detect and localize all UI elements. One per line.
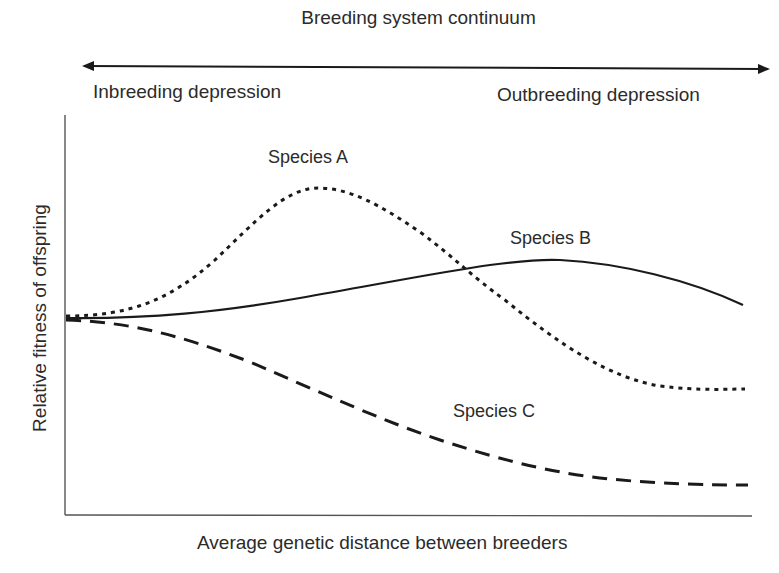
- x-axis-label: Average genetic distance between breeder…: [0, 532, 779, 554]
- outbreeding-depression-label: Outbreeding depression: [497, 84, 700, 106]
- continuum-arrow: [84, 66, 768, 69]
- species-c-curve: [66, 320, 748, 485]
- species-c-label: Species C: [453, 401, 535, 422]
- species-a-curve: [66, 188, 745, 389]
- species-a-label: Species A: [268, 147, 348, 168]
- x-axis: [65, 515, 752, 516]
- species-b-label: Species B: [510, 228, 591, 249]
- continuum-title: Breeding system continuum: [0, 7, 779, 29]
- species-b-curve: [66, 260, 743, 318]
- inbreeding-depression-label: Inbreeding depression: [93, 81, 281, 103]
- y-axis-label: Relative fitness of offspring: [29, 204, 51, 432]
